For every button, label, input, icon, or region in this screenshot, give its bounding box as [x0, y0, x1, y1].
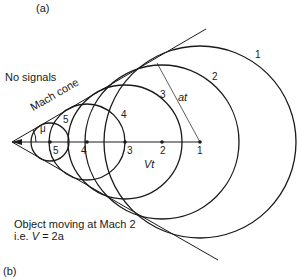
point-label-5: 5	[53, 146, 59, 156]
at-radius-label: at	[178, 91, 187, 103]
caption-variable: V	[32, 230, 39, 242]
position-dot-1	[198, 140, 202, 144]
circle-label-4: 4	[121, 110, 127, 120]
caption-equation: = 2a	[39, 230, 64, 242]
circle-label-1: 1	[255, 50, 261, 60]
position-dot-2	[160, 140, 164, 144]
caption-line-2: i.e. V = 2a	[14, 230, 64, 242]
point-label-1: 1	[197, 146, 203, 156]
vt-distance-label: Vt	[144, 158, 154, 170]
caption-prefix: i.e.	[14, 230, 32, 242]
no-signals-label: No signals	[5, 71, 56, 83]
apex-arrow-icon	[12, 139, 22, 145]
position-dot-3	[123, 140, 127, 144]
panel-label-a: (a)	[36, 2, 49, 14]
position-dot-5	[48, 140, 52, 144]
mu-angle-label: μ	[40, 124, 46, 134]
caption-line-1: Object moving at Mach 2	[14, 218, 136, 230]
position-dot-4	[85, 140, 89, 144]
panel-label-b: (b)	[3, 265, 16, 277]
circle-label-5: 5	[63, 115, 69, 125]
point-label-3: 3	[127, 146, 133, 156]
circle-label-3: 3	[160, 90, 166, 100]
circle-label-2: 2	[212, 72, 218, 82]
point-label-2: 2	[160, 146, 166, 156]
point-label-4: 4	[81, 146, 87, 156]
